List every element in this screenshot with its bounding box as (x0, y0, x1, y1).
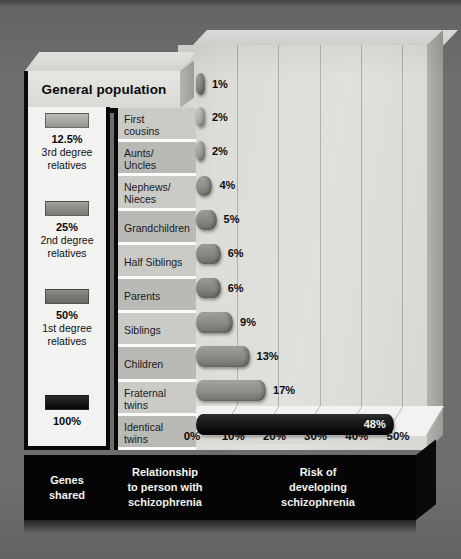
background-vignette (0, 0, 461, 559)
infographic-root: General population 12.5%3rd degree relat… (0, 0, 461, 559)
